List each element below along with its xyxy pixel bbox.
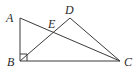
geometry-diagram: A B C D E	[0, 0, 139, 72]
label-a: A	[5, 11, 14, 25]
label-b: B	[7, 55, 15, 69]
segment-dc	[70, 18, 120, 61]
label-c: C	[124, 55, 133, 69]
label-e: E	[47, 17, 56, 31]
label-d: D	[64, 3, 74, 17]
segment-ac	[20, 18, 120, 61]
